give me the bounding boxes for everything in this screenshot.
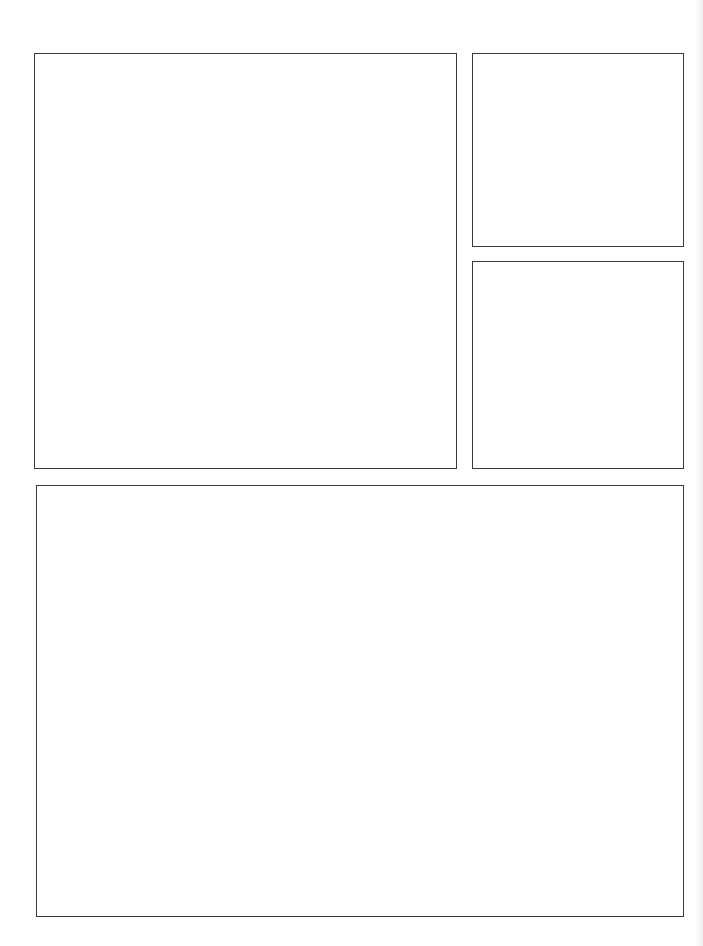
panel-top-left [34,53,457,469]
page-edge-shadow [695,0,703,946]
panel-top-right-upper [472,53,684,247]
panel-bottom-wide [36,485,684,917]
panel-top-right-lower [472,261,684,469]
